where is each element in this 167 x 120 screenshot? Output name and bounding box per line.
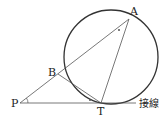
geometry-diagram: A B P T 接線: [0, 0, 167, 120]
segment-AT: [101, 19, 129, 103]
label-T: T: [97, 105, 105, 118]
circle: [64, 10, 158, 104]
tangent-label: 接線: [139, 97, 159, 109]
angle-dot-A: [118, 29, 120, 31]
angle-dot-T: [89, 99, 91, 101]
secant-PA: [20, 19, 129, 103]
angle-mark-P: [26, 98, 28, 103]
label-A: A: [129, 5, 139, 18]
segment-BT: [58, 74, 101, 103]
label-B: B: [48, 66, 56, 79]
label-P: P: [11, 97, 19, 110]
